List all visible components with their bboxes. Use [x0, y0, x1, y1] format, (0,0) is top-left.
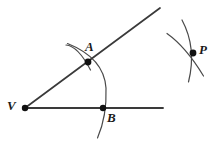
geometry-figure: V A B P: [0, 0, 220, 142]
point-p-dot: [190, 50, 197, 57]
point-b-label: B: [107, 111, 116, 124]
point-v-dot: [22, 105, 28, 111]
point-a-label: A: [85, 40, 94, 53]
point-b-dot: [100, 105, 106, 111]
point-v-label: V: [7, 99, 16, 112]
point-a-dot: [85, 59, 92, 66]
point-p-label: P: [199, 43, 207, 56]
